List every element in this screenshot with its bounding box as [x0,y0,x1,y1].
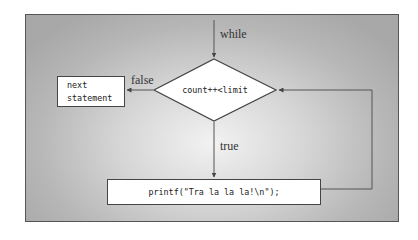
next-statement-box: next statement [57,76,125,107]
while-label: while [220,27,247,41]
loop-body-label: printf("Tra la la la!\n"); [148,186,279,199]
next-statement-line2: statement [67,92,124,105]
true-label: true [220,139,239,153]
loop-back-arrow [279,90,372,189]
next-statement-line1: next [67,79,124,92]
loop-body-box: printf("Tra la la la!\n"); [107,179,321,205]
condition-label: count++<limit [182,85,248,95]
false-label: false [131,73,154,87]
